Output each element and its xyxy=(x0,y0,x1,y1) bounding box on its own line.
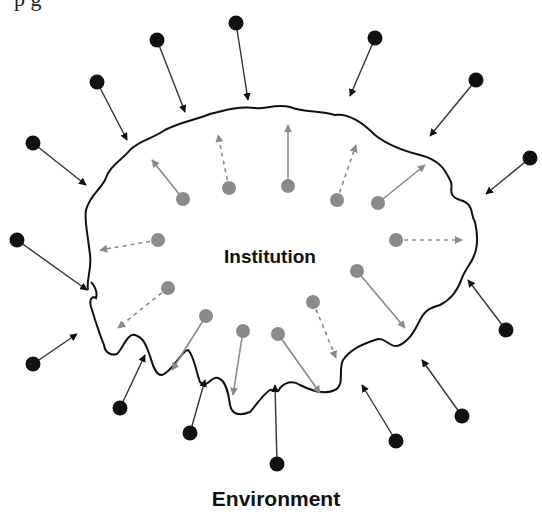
inward-arrow xyxy=(275,385,277,464)
inward-arrow xyxy=(97,82,127,140)
internal-force-arrow xyxy=(330,145,356,207)
inward-arrow xyxy=(236,23,248,100)
institution-dot xyxy=(236,324,250,338)
external-force-arrow xyxy=(486,151,538,195)
external-force-arrow xyxy=(229,16,249,101)
environment-dot xyxy=(523,151,538,166)
external-force-arrow xyxy=(90,75,128,141)
internal-force-arrow xyxy=(371,165,425,210)
outward-arrow xyxy=(172,316,206,370)
inward-arrow xyxy=(422,360,462,416)
internal-force-arrow xyxy=(389,233,462,247)
inward-arrow xyxy=(120,355,145,408)
institution-dot xyxy=(176,192,190,206)
environment-dot xyxy=(26,357,41,372)
internal-force-arrow xyxy=(350,264,405,328)
environment-dot xyxy=(26,136,41,151)
inward-arrow xyxy=(468,280,506,330)
institution-dot xyxy=(371,196,385,210)
environment-dot xyxy=(229,16,244,31)
external-force-arrow xyxy=(362,385,404,449)
institution-dot xyxy=(281,179,295,193)
dashed-outward-arrow xyxy=(218,135,229,188)
internal-force-arrow xyxy=(100,233,165,250)
environment-dot xyxy=(389,434,404,449)
inward-arrow xyxy=(350,38,375,96)
institution-dot xyxy=(389,233,403,247)
external-force-arrow xyxy=(150,33,186,113)
internal-force-arrow xyxy=(118,281,175,328)
inward-arrow xyxy=(430,80,476,136)
institution-dot xyxy=(271,327,285,341)
institution-dot xyxy=(151,233,165,247)
outward-arrow xyxy=(152,160,183,199)
institution-dot xyxy=(330,193,344,207)
external-force-arrow xyxy=(10,233,88,291)
external-force-arrow xyxy=(26,334,78,372)
outward-arrow xyxy=(378,165,425,203)
internal-force-arrow xyxy=(218,135,236,195)
environment-dot xyxy=(368,31,383,46)
environment-dot xyxy=(150,33,165,48)
internal-force-arrow xyxy=(172,309,213,370)
environment-dot xyxy=(113,401,128,416)
external-force-arrow xyxy=(270,385,285,472)
environment-dot xyxy=(183,426,198,441)
inward-arrow xyxy=(33,334,77,364)
external-force-arrow xyxy=(430,73,484,137)
environment-dot xyxy=(10,233,25,248)
internal-force-arrow xyxy=(306,295,336,358)
inward-arrow xyxy=(33,143,86,185)
institution-label: Institution xyxy=(224,246,316,267)
environment-dot xyxy=(270,457,285,472)
outward-arrow xyxy=(233,331,243,395)
environment-dot xyxy=(469,73,484,88)
outward-arrow xyxy=(357,271,405,328)
environment-dot xyxy=(455,409,470,424)
external-force-arrow xyxy=(350,31,383,97)
external-force-arrow xyxy=(422,360,470,424)
inward-arrow xyxy=(190,380,205,433)
institution-dot xyxy=(306,295,320,309)
internal-force-arrow xyxy=(152,160,190,206)
dashed-outward-arrow xyxy=(313,302,336,358)
institution-dot xyxy=(350,264,364,278)
environment-label: Environment xyxy=(212,487,340,510)
dashed-outward-arrow xyxy=(118,288,168,328)
institution-dot xyxy=(222,181,236,195)
internal-force-arrow xyxy=(281,125,295,193)
institution-dot xyxy=(199,309,213,323)
external-force-arrow xyxy=(113,355,146,416)
internal-force-arrow xyxy=(233,324,250,395)
environment-dot xyxy=(499,323,514,338)
external-force-arrow xyxy=(183,380,206,441)
environment-dot xyxy=(90,75,105,90)
external-force-arrow xyxy=(26,136,87,186)
dashed-outward-arrow xyxy=(100,240,158,250)
inward-arrow xyxy=(486,158,530,194)
institution-environment-diagram: Institution Environment xyxy=(0,0,542,514)
inward-arrow xyxy=(157,40,185,112)
inward-arrow xyxy=(17,240,87,290)
dashed-outward-arrow xyxy=(337,145,356,200)
external-force-arrow xyxy=(468,280,514,338)
institution-dot xyxy=(161,281,175,295)
inward-arrow xyxy=(362,385,396,441)
